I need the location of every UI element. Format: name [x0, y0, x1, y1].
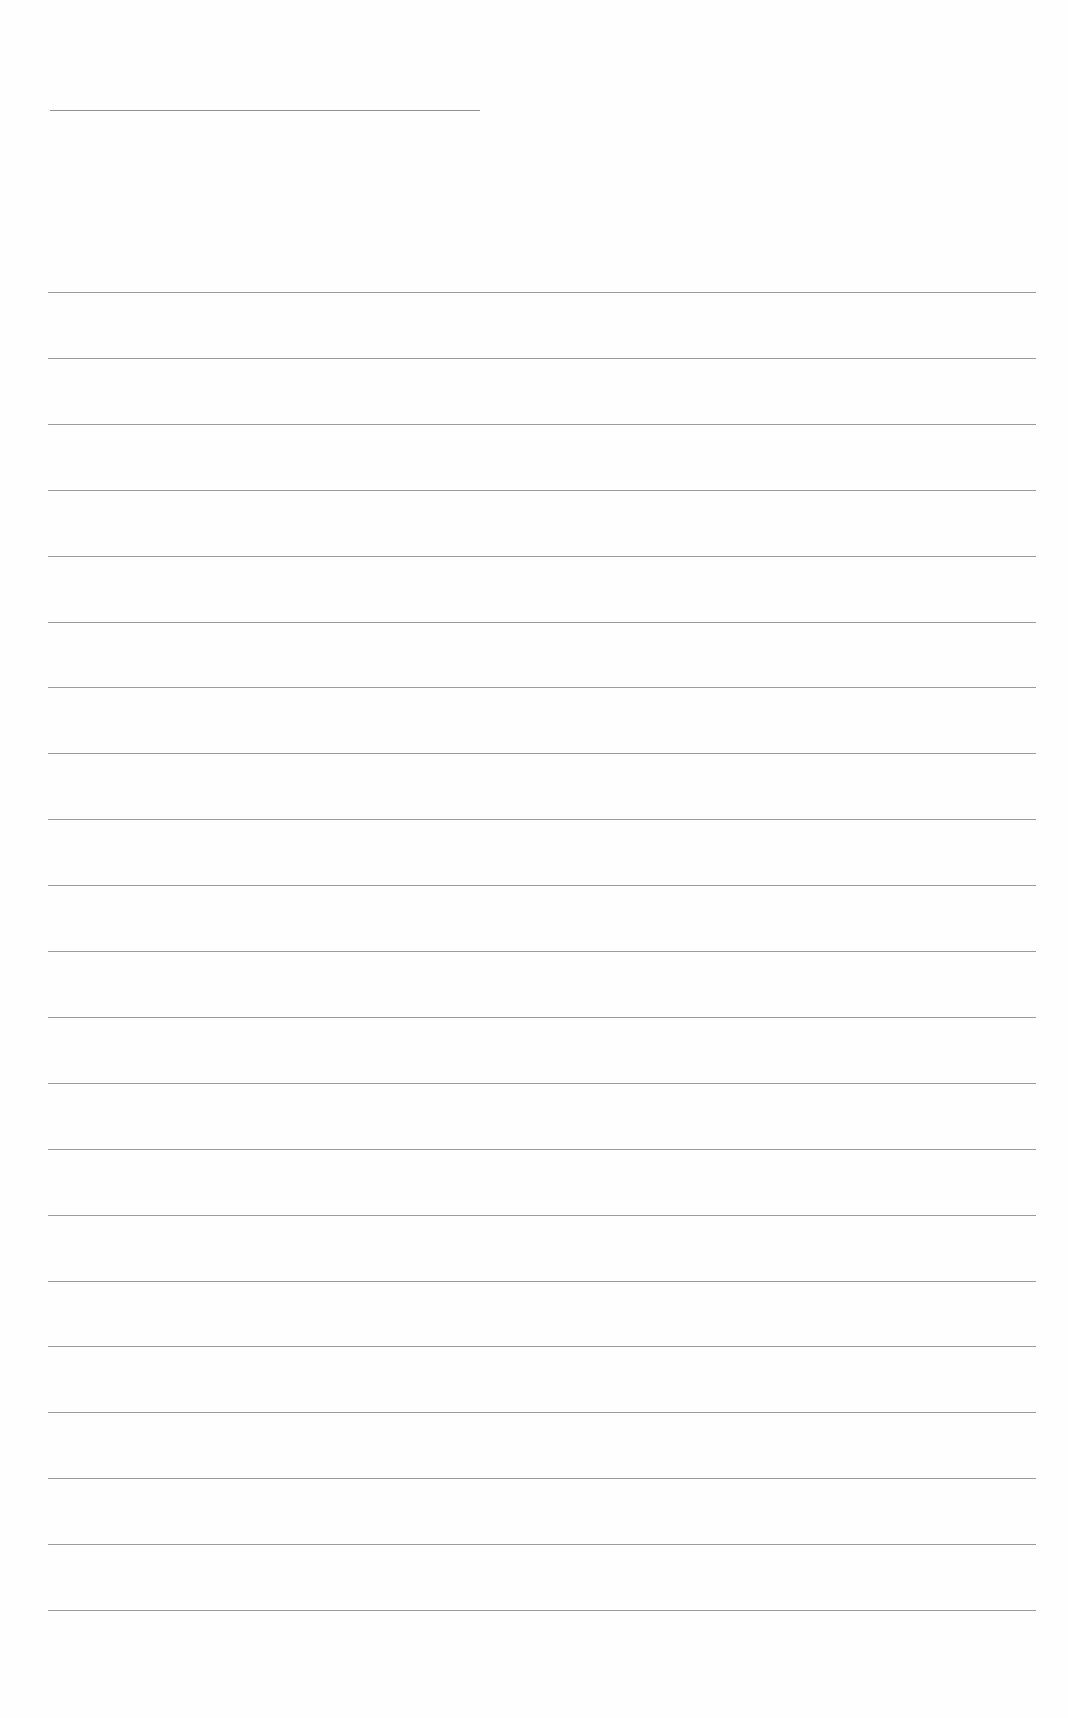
lined-page [0, 0, 1068, 1718]
writing-line [48, 1544, 1036, 1545]
writing-line [48, 687, 1036, 688]
writing-line [48, 1149, 1036, 1150]
writing-line [48, 1215, 1036, 1216]
writing-line [48, 1017, 1036, 1018]
title-line [50, 110, 480, 111]
writing-line [48, 622, 1036, 623]
writing-line [48, 819, 1036, 820]
writing-line [48, 556, 1036, 557]
writing-line [48, 358, 1036, 359]
writing-line [48, 1346, 1036, 1347]
writing-line [48, 951, 1036, 952]
writing-line [48, 490, 1036, 491]
writing-line [48, 1478, 1036, 1479]
writing-line [48, 424, 1036, 425]
writing-line [48, 292, 1036, 293]
writing-line [48, 1610, 1036, 1611]
writing-line [48, 1412, 1036, 1413]
writing-line [48, 1281, 1036, 1282]
writing-line [48, 1083, 1036, 1084]
writing-line [48, 885, 1036, 886]
writing-line [48, 753, 1036, 754]
